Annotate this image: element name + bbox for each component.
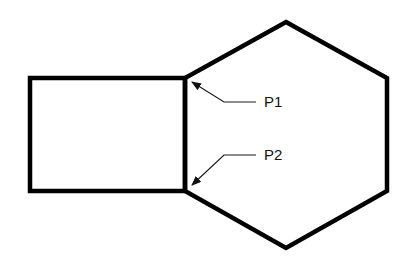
- p2-leader-arrow: [192, 155, 256, 185]
- diagram-canvas: P1 P2: [0, 0, 412, 270]
- hexagon-shape: [185, 22, 387, 248]
- p2-label: P2: [264, 146, 282, 163]
- p1-label: P1: [264, 93, 282, 110]
- p1-leader-arrow: [192, 82, 256, 102]
- rectangle-shape: [30, 78, 185, 191]
